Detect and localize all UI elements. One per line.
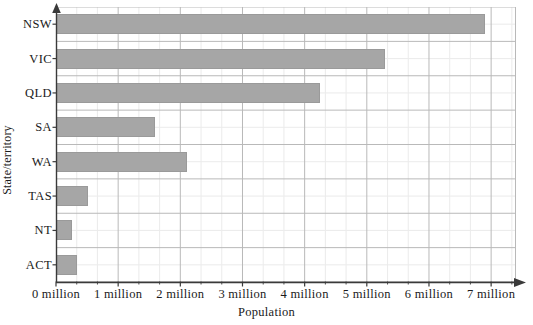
bar-row [56, 145, 516, 179]
bar-wa[interactable] [56, 152, 187, 172]
y-tick-label-nt: NT [0, 224, 52, 236]
x-axis-tick-marks [56, 282, 491, 287]
bar-nsw[interactable] [56, 14, 485, 34]
y-tick-label-act: ACT [0, 259, 52, 271]
bar-qld[interactable] [56, 83, 320, 103]
bar-row [56, 248, 516, 282]
y-axis-title: State/territory [0, 125, 15, 195]
bar-tas[interactable] [56, 186, 88, 206]
bar-row [56, 213, 516, 247]
y-tick-label-qld: QLD [0, 87, 52, 99]
x-tick-label-7: 7 million [445, 287, 533, 302]
y-tick-label-nsw: NSW [0, 18, 52, 30]
bar-row [56, 76, 516, 110]
y-axis-title-wrapper: State/territory [0, 100, 15, 220]
bar-nt[interactable] [56, 220, 72, 240]
bar-sa[interactable] [56, 117, 155, 137]
y-tick-label-vic: VIC [0, 53, 52, 65]
bar-row [56, 110, 516, 144]
bar-vic[interactable] [56, 49, 385, 69]
bars-layer [56, 7, 516, 282]
x-axis-title: Population [0, 305, 533, 320]
x-axis-tick-labels: 0 million1 million2 million3 million4 mi… [0, 287, 533, 305]
bar-row [56, 7, 516, 41]
bar-row [56, 179, 516, 213]
bar-act[interactable] [56, 255, 77, 275]
bar-chart: NSWVICQLDSAWATASNTACT 0 million1 million… [0, 0, 533, 325]
bar-row [56, 41, 516, 75]
